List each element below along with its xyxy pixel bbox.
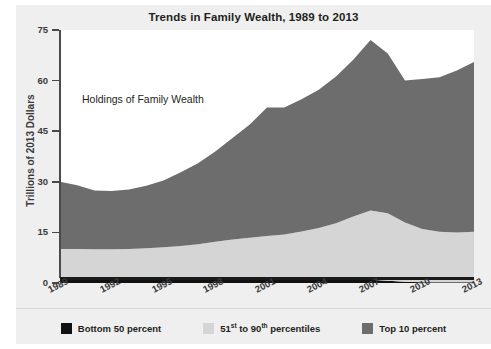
- legend-label: Bottom 50 percent: [78, 323, 161, 334]
- figure-panel: Trends in Family Wealth, 1989 to 2013 Tr…: [16, 5, 491, 344]
- y-tick-label: 75: [18, 24, 48, 35]
- plot-annotation: Holdings of Family Wealth: [82, 93, 204, 105]
- legend-item[interactable]: Bottom 50 percent: [61, 323, 161, 334]
- y-tick-mark: [52, 29, 59, 31]
- chart-legend: Bottom 50 percent51st to 90th percentile…: [16, 317, 491, 339]
- y-tick-label: 0: [18, 277, 48, 288]
- y-tick-mark: [52, 232, 59, 234]
- x-tick-label: 1989: [46, 275, 70, 294]
- legend-label: 51st to 90th percentiles: [220, 323, 320, 334]
- area-series: [60, 40, 474, 249]
- legend-label: Top 10 percent: [379, 323, 446, 334]
- legend-item[interactable]: Top 10 percent: [362, 323, 446, 334]
- y-tick-mark: [52, 181, 59, 183]
- plot-area: [60, 30, 474, 283]
- y-tick-label: 15: [18, 226, 48, 237]
- y-tick-mark: [52, 130, 59, 132]
- legend-divider: [16, 308, 491, 309]
- chart-page: Trends in Family Wealth, 1989 to 2013 Tr…: [0, 0, 491, 349]
- legend-item[interactable]: 51st to 90th percentiles: [203, 323, 320, 334]
- y-tick-label: 60: [18, 75, 48, 86]
- y-tick-mark: [52, 80, 59, 82]
- legend-swatch: [203, 323, 214, 334]
- y-axis-line: [59, 30, 61, 278]
- stacked-area-series: [60, 30, 474, 283]
- y-tick-label: 45: [18, 125, 48, 136]
- legend-swatch: [61, 323, 72, 334]
- chart-title: Trends in Family Wealth, 1989 to 2013: [16, 11, 491, 23]
- y-axis-title: Trillions of 2013 Dollars: [25, 71, 36, 231]
- y-tick-label: 30: [18, 176, 48, 187]
- legend-swatch: [362, 323, 373, 334]
